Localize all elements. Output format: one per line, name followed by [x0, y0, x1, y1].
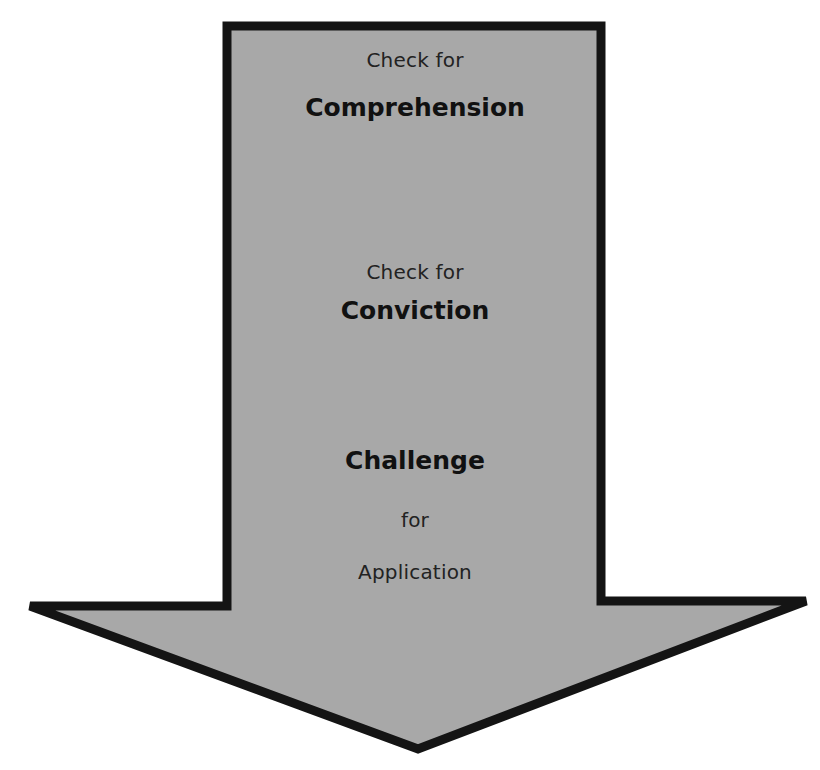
step-3-suffix: Application	[232, 560, 598, 584]
step-3-connector: for	[232, 508, 598, 532]
arrow-outline	[30, 26, 806, 749]
step-3-keyword: Challenge	[232, 446, 598, 475]
step-2-prefix: Check for	[232, 260, 598, 284]
step-2-keyword: Conviction	[232, 296, 598, 325]
step-1-keyword: Comprehension	[232, 93, 598, 122]
step-1-prefix: Check for	[232, 48, 598, 72]
